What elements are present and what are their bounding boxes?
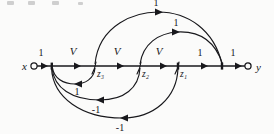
upper-arc-inner-label: 1	[174, 17, 179, 28]
edge-label-z1-n5: 1	[198, 47, 203, 58]
lower-arc-z1-n1: -1	[52, 68, 179, 133]
signal-flow-graph: x y 1 V V V 1 1 z₃ z₂ z₁	[0, 0, 274, 134]
arrowhead-lower-outer	[120, 115, 128, 122]
upper-arc-outer-label: 1	[154, 0, 159, 8]
output-label: y	[255, 61, 261, 73]
arrowhead-upper-outer	[155, 9, 163, 16]
lower-arc-middle-label: -1	[92, 104, 100, 115]
arrowhead-x-n1	[41, 63, 48, 70]
node-label-z2: z₂	[141, 69, 150, 79]
lower-arc-outer-label: -1	[116, 122, 124, 133]
input-terminal-node	[31, 63, 37, 69]
lower-arc-inner-label: 1	[75, 86, 80, 97]
scan-artifacts	[7, 1, 83, 5]
figure-canvas: x y 1 V V V 1 1 z₃ z₂ z₁	[0, 0, 274, 134]
edge-label-n1-z3: V	[70, 45, 78, 57]
lower-arc-outer-path	[52, 68, 179, 118]
lower-arc-z3-n1: 1	[53, 68, 96, 97]
arrowhead-n1-z3	[74, 63, 81, 70]
arrowhead-lower-middle	[96, 97, 104, 104]
edge-label-z2-z1: V	[156, 45, 164, 57]
edge-label-x-n1: 1	[39, 47, 44, 58]
lower-arc-middle-path	[52, 68, 140, 100]
arrowhead-upper-inner	[172, 29, 180, 36]
edge-label-n5-y: 1	[231, 47, 236, 58]
upper-arc-z2-n5: 1	[140, 17, 223, 64]
lower-arc-z2-n1: -1	[52, 68, 140, 115]
node-label-z3: z₃	[96, 69, 104, 79]
output-terminal-node	[245, 63, 251, 69]
node-stubs	[92, 62, 179, 74]
edge-label-z3-z2: V	[114, 45, 122, 57]
lower-arc-inner-path	[53, 68, 96, 84]
arrowhead-z1-n5	[201, 63, 208, 70]
arrowhead-z2-z1	[160, 63, 167, 70]
input-label: x	[21, 60, 27, 72]
node-label-z1: z₁	[179, 69, 187, 79]
arrowhead-n5-y	[235, 63, 242, 70]
arrowhead-z3-z2	[117, 63, 124, 70]
